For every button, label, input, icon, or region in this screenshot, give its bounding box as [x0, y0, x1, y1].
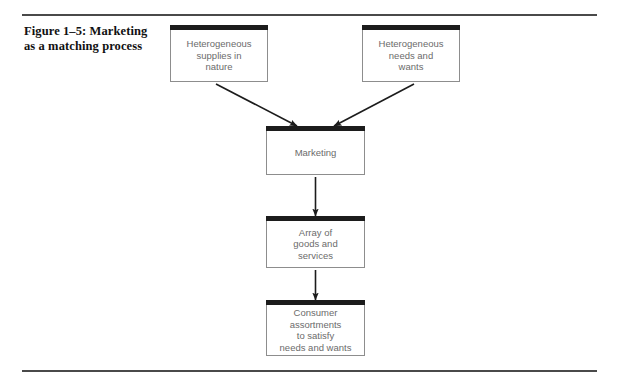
node-header-band: [362, 25, 460, 30]
node-label-line: goods and: [293, 238, 337, 250]
node-label-line: supplies in: [187, 50, 252, 62]
node-label: Consumer assortments to satisfy needs an…: [276, 307, 356, 353]
node-label-line: Heterogeneous: [187, 38, 252, 50]
node-label-line: assortments: [280, 319, 352, 331]
figure-caption-line-1: Figure 1–5: Marketing: [24, 24, 174, 39]
node-label: Heterogeneous needs and wants: [375, 38, 448, 73]
node-heterogeneous-needs: Heterogeneous needs and wants: [362, 30, 460, 82]
node-label-line: to satisfy: [280, 330, 352, 342]
figure-page: Figure 1–5: Marketing as a matching proc…: [0, 0, 626, 386]
figure-caption-line-2: as a matching process: [24, 39, 174, 54]
node-header-band: [170, 25, 268, 30]
node-consumer-assortments: Consumer assortments to satisfy needs an…: [266, 305, 365, 356]
node-label-line: Array of: [293, 227, 337, 239]
edge-supplies-to-marketing: [216, 84, 297, 126]
node-label-line: services: [293, 250, 337, 262]
node-label-line: needs and wants: [280, 342, 352, 354]
node-heterogeneous-supplies: Heterogeneous supplies in nature: [170, 30, 268, 82]
node-label-line: Marketing: [295, 147, 337, 159]
node-label-line: nature: [187, 61, 252, 73]
node-marketing: Marketing: [266, 131, 365, 175]
node-label: Marketing: [291, 147, 341, 159]
node-header-band: [266, 300, 365, 305]
top-rule: [22, 14, 597, 16]
node-label-line: needs and: [379, 50, 444, 62]
node-label: Heterogeneous supplies in nature: [183, 38, 256, 73]
figure-caption: Figure 1–5: Marketing as a matching proc…: [24, 24, 174, 54]
node-header-band: [266, 126, 365, 131]
node-label-line: Consumer: [280, 307, 352, 319]
node-label: Array of goods and services: [289, 227, 341, 262]
node-label-line: Heterogeneous: [379, 38, 444, 50]
bottom-rule: [22, 370, 597, 372]
edge-needs-to-marketing: [334, 84, 414, 126]
node-array-of-goods-and-services: Array of goods and services: [266, 221, 365, 268]
node-header-band: [266, 216, 365, 221]
node-label-line: wants: [379, 61, 444, 73]
